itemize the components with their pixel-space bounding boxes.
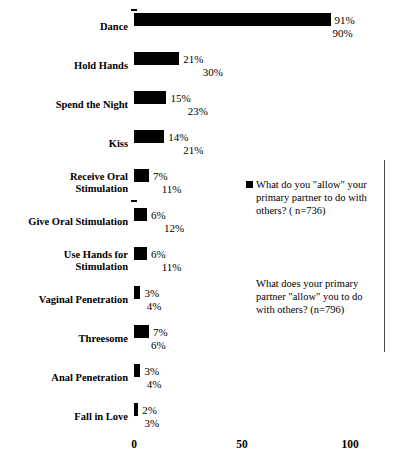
chart-row: Hold Hands 21% 30% xyxy=(0,47,396,85)
category-label: Anal Penetration xyxy=(0,372,128,384)
bar-series2-wrap: 3% xyxy=(134,416,140,429)
category-label-line: Threesome xyxy=(79,333,128,344)
bar-series2 xyxy=(134,260,158,273)
x-axis: 0 50 100 xyxy=(0,434,396,466)
bar-series2 xyxy=(134,299,143,312)
bar-value-series1: 3% xyxy=(140,287,159,299)
bar-value-series1: 6% xyxy=(147,209,166,221)
bar-series1-wrap: 21% xyxy=(134,52,179,65)
bar-series2-wrap: 11% xyxy=(134,182,158,195)
bar-group: 91% 90% xyxy=(134,8,396,46)
legend-line: partner "allow" you to do xyxy=(256,291,363,302)
chart-row: Spend the Night 15% 23% xyxy=(0,86,396,124)
bar-series1-wrap: 7% xyxy=(134,325,149,338)
bar-group: 14% 21% xyxy=(134,125,396,163)
category-label-line: Use Hands for xyxy=(64,249,128,260)
category-label: Fall in Love xyxy=(0,411,128,423)
chart-row: Dance 91% 90% xyxy=(0,8,396,46)
bar-value-series2: 11% xyxy=(158,183,182,195)
bar-group: 21% 30% xyxy=(134,47,396,85)
bar-series1 xyxy=(134,247,147,260)
bar-value-series2: 4% xyxy=(143,378,162,390)
legend-line: What does your primary xyxy=(256,278,358,289)
bar-series2 xyxy=(134,377,143,390)
category-label-line: Give Oral Stimulation xyxy=(28,216,128,227)
bar-series2 xyxy=(134,221,160,234)
legend-line: primary partner to do with xyxy=(256,192,367,203)
bar-series2-wrap: 23% xyxy=(134,104,184,117)
x-tick-label: 0 xyxy=(131,438,137,450)
bar-value-series1: 7% xyxy=(149,326,168,338)
legend-swatch-empty-square-icon xyxy=(246,280,253,287)
bar-value-series1: 7% xyxy=(149,170,168,182)
bar-chart: Dance 91% 90% Hold Hands 2 xyxy=(0,0,396,466)
bar-series2-wrap: 6% xyxy=(134,338,147,351)
bar-series1-wrap: 6% xyxy=(134,247,147,260)
category-label-line: Hold Hands xyxy=(74,60,128,71)
x-tick-label: 100 xyxy=(341,438,358,450)
category-label: Kiss xyxy=(0,138,128,150)
bar-series1-wrap: 2% xyxy=(134,403,138,416)
bar-value-series2: 30% xyxy=(199,66,223,78)
bar-value-series1: 14% xyxy=(164,131,188,143)
bar-group: 7% 6% xyxy=(134,320,396,358)
category-label-line: Dance xyxy=(100,21,128,32)
category-label: Receive Oral Stimulation xyxy=(0,171,128,195)
bar-value-series1: 21% xyxy=(179,53,203,65)
category-label-line: Receive Oral xyxy=(70,171,128,182)
category-label: Dance xyxy=(0,21,128,33)
bar-series2-wrap: 4% xyxy=(134,299,143,312)
bar-series1 xyxy=(134,52,179,65)
bar-group: 3% 4% xyxy=(134,359,396,397)
category-label-line: Fall in Love xyxy=(74,411,128,422)
category-label: Vaginal Penetration xyxy=(0,294,128,306)
category-label: Hold Hands xyxy=(0,60,128,72)
bar-series1-wrap: 3% xyxy=(134,286,140,299)
bar-series1-wrap: 91% xyxy=(134,13,331,26)
bar-series2 xyxy=(134,26,328,39)
chart-row: Kiss 14% 21% xyxy=(0,125,396,163)
bar-value-series2: 21% xyxy=(179,144,203,156)
bar-series2-wrap: 12% xyxy=(134,221,160,234)
bar-series2-wrap: 21% xyxy=(134,143,179,156)
bar-series2 xyxy=(134,143,179,156)
bar-series2 xyxy=(134,338,147,351)
category-label: Spend the Night xyxy=(0,99,128,111)
bar-value-series2: 90% xyxy=(328,27,352,39)
chart-row: Anal Penetration 3% 4% xyxy=(0,359,396,397)
bar-value-series1: 2% xyxy=(138,404,157,416)
bar-series1 xyxy=(134,208,147,221)
bar-series1 xyxy=(134,130,164,143)
legend-divider-rule xyxy=(384,160,385,352)
category-label-line: Spend the Night xyxy=(56,99,128,110)
bar-series2 xyxy=(134,182,158,195)
legend-line: What do you "allow" your xyxy=(256,179,367,190)
bar-group: 2% 3% xyxy=(134,398,396,436)
category-label-line: Anal Penetration xyxy=(51,372,128,383)
bar-value-series1: 3% xyxy=(140,365,159,377)
bar-series1-wrap: 15% xyxy=(134,91,166,104)
bar-series1-wrap: 14% xyxy=(134,130,164,143)
bar-series2-wrap: 90% xyxy=(134,26,328,39)
bar-value-series1: 6% xyxy=(147,248,166,260)
bar-series1 xyxy=(134,91,166,104)
legend-entry-series1: What do you "allow" your primary partner… xyxy=(246,178,382,217)
bar-series2 xyxy=(134,65,199,78)
bar-value-series2: 11% xyxy=(158,261,182,273)
bar-series1-wrap: 6% xyxy=(134,208,147,221)
category-label: Threesome xyxy=(0,333,128,345)
chart-row: Threesome 7% 6% xyxy=(0,320,396,358)
legend-swatch-filled-square-icon xyxy=(246,181,253,188)
bar-value-series2: 6% xyxy=(147,339,166,351)
chart-legend: What do you "allow" your primary partner… xyxy=(246,178,382,316)
legend-line: others? ( n=736) xyxy=(256,205,326,216)
bar-series2-wrap: 4% xyxy=(134,377,143,390)
category-label-line: Kiss xyxy=(109,138,128,149)
bar-value-series2: 4% xyxy=(143,300,162,312)
bar-series1-wrap: 7% xyxy=(134,169,149,182)
category-label: Use Hands for Stimulation xyxy=(0,249,128,273)
legend-line: with others? (n=796) xyxy=(256,304,344,315)
bar-series2-wrap: 11% xyxy=(134,260,158,273)
chart-row: Fall in Love 2% 3% xyxy=(0,398,396,436)
legend-entry-text: What do you "allow" your primary partner… xyxy=(246,178,382,217)
